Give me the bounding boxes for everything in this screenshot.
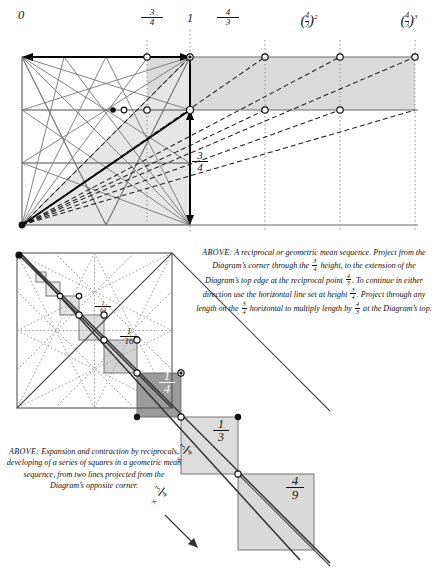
- sqlabel-3-numerator: 1: [213, 418, 229, 430]
- caption-fraction-numerator: 3: [312, 258, 317, 265]
- caption-left: ABOVE: Expansion and contraction by reci…: [6, 446, 182, 492]
- caption-right-fraction-1: 34: [312, 258, 317, 272]
- height-label-three-quarters: 3 4: [192, 150, 208, 173]
- caption-right-body: A reciprocal or geometric mean sequence.…: [196, 248, 432, 313]
- square-label-four-ninths: 4 9: [286, 474, 304, 501]
- caption-right-text-8: horizontal to multiply length by: [248, 304, 354, 313]
- axis-label-one: 1: [181, 11, 199, 26]
- axis-label-four-thirds: 4 3: [217, 8, 239, 28]
- sqlabel-9-denominator: 9: [286, 487, 304, 501]
- top-diagram-svg: [0, 0, 435, 240]
- caption-right-fraction-3: 43: [346, 273, 351, 287]
- square-label-one-quarter: 1 4: [159, 370, 175, 395]
- exponent-three: 3: [414, 13, 418, 21]
- exponent-two: 2: [314, 13, 318, 21]
- axis-label-four-thirds-denominator: 3: [217, 17, 239, 27]
- height-label-numerator: 3: [192, 150, 208, 161]
- axis-label-zero: 0: [12, 8, 30, 23]
- caption-right-fraction-5: 34: [350, 287, 355, 301]
- caption-fraction-denominator: 3: [355, 308, 360, 316]
- caption-right-lead: ABOVE:: [202, 248, 232, 257]
- caption-fraction-numerator: 3: [350, 287, 355, 294]
- square-label-one-sixty-fourth: 1 64: [95, 300, 111, 313]
- caption-fraction-denominator: 4: [242, 308, 247, 316]
- sqlabel-16-numerator: 1: [120, 327, 138, 336]
- caption-right-fraction-7: 34: [242, 301, 247, 315]
- sqlabel-16-denominator: 16: [120, 336, 138, 346]
- caption-fraction-numerator: 3: [242, 301, 247, 308]
- caption-fraction-denominator: 4: [350, 293, 355, 301]
- axis-label-three-quarters-denominator: 4: [141, 17, 163, 27]
- caption-left-lead: ABOVE:: [9, 447, 39, 456]
- caption-right-text-10: at the Diagram’s top.: [361, 304, 432, 313]
- axis-label-four-thirds-numerator: 4: [217, 8, 239, 17]
- sqlabel-64-denominator: 64: [95, 306, 111, 313]
- sqlabel-9-numerator: 4: [286, 474, 304, 487]
- caption-fraction-numerator: 4: [346, 273, 351, 280]
- caption-right-fraction-9: 43: [355, 301, 360, 315]
- axis-label-four-thirds-cubed: (43)3: [387, 12, 431, 29]
- axis-label-three-quarters: 3 4: [141, 8, 163, 28]
- caption-right: ABOVE: A reciprocal or geometric mean se…: [196, 247, 432, 315]
- sqlabel-3-denominator: 3: [213, 430, 229, 443]
- height-label-denominator: 4: [192, 161, 208, 173]
- figure-canvas: 0 3 4 1 4 3 (43)2 (43)3 3 4: [0, 0, 435, 568]
- sqlabel-4-denominator: 4: [159, 382, 175, 395]
- axis-label-four-thirds-squared: (43)2: [287, 12, 331, 29]
- caption-fraction-denominator: 4: [312, 265, 317, 273]
- caption-fraction-numerator: 4: [355, 301, 360, 308]
- axis-label-three-quarters-numerator: 3: [141, 8, 163, 17]
- sqlabel-4-numerator: 1: [159, 370, 175, 382]
- square-label-one-third: 1 3: [213, 418, 229, 443]
- square-label-one-sixteenth: 1 16: [120, 327, 138, 346]
